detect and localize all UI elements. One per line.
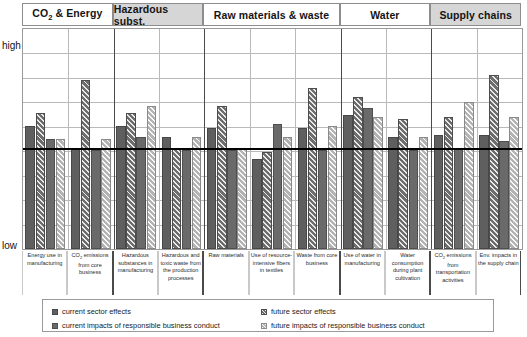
bar <box>318 150 327 249</box>
x-axis-tick-label: Water consumption during plant cultivati… <box>385 251 430 295</box>
x-axis-tick-label-text: Waste from core business <box>296 252 337 267</box>
bar <box>479 135 488 249</box>
category-group-header: Water <box>340 3 431 26</box>
bar <box>444 117 453 249</box>
legend-item[interactable]: future sector effects <box>261 307 336 316</box>
bar <box>328 126 337 249</box>
bar <box>172 148 181 249</box>
threshold-line <box>23 148 522 150</box>
y-axis-label-low: low <box>2 240 17 251</box>
x-axis-tick-label-text: Water consumption during plant cultivati… <box>387 252 428 282</box>
legend-swatch-icon <box>261 323 267 329</box>
legend-item-label: current sector effects <box>62 307 131 316</box>
bar <box>192 137 201 249</box>
category-group-header: Supply chains <box>430 3 521 26</box>
group-separator <box>204 29 205 249</box>
legend-item[interactable]: current sector effects <box>52 307 131 316</box>
bar <box>182 150 191 249</box>
x-axis-tick-label-text: CO2 emissions from transportation activi… <box>432 252 473 284</box>
x-axis-tick-label-text: Hazardous and toxic waste from the produ… <box>160 252 201 282</box>
bar <box>147 106 156 249</box>
bar <box>36 113 45 249</box>
vertical-gridline <box>159 29 160 249</box>
x-axis-tick-label-text: CO2 emissions from core business <box>69 252 110 277</box>
bar <box>71 148 80 249</box>
bar <box>252 159 261 249</box>
vertical-gridline <box>295 29 296 249</box>
bar <box>499 141 508 249</box>
y-axis-label-high: high <box>2 40 21 51</box>
horizontal-gridline <box>23 78 522 79</box>
bar <box>91 150 100 249</box>
legend-item[interactable]: current impacts of responsible business … <box>52 321 220 330</box>
vertical-gridline <box>386 29 387 249</box>
bar <box>227 150 236 249</box>
bar <box>101 139 110 249</box>
x-axis-tick-label-text: Raw materials <box>208 252 243 260</box>
bar <box>373 117 382 249</box>
x-axis-label-band: Energy use in manufacturingCO2 emissions… <box>22 251 523 295</box>
category-header-band: CO2 & EnergyHazardous subst.Raw material… <box>22 3 523 26</box>
x-axis-tick-label-text: Hazardous substances in manufacturing <box>115 252 156 275</box>
bar <box>489 75 498 249</box>
x-axis-tick-label: Hazardous substances in manufacturing <box>113 251 158 295</box>
bar <box>308 88 317 249</box>
legend-item-label: future impacts of responsible business c… <box>271 321 425 330</box>
bar <box>162 137 171 249</box>
x-axis-tick-label: Use of water in manufacturing <box>340 251 385 295</box>
x-axis-tick-label: Energy use in manufacturing <box>22 251 67 295</box>
group-separator <box>341 29 342 249</box>
bar <box>46 139 55 249</box>
horizontal-gridline <box>23 102 522 103</box>
bar <box>419 137 428 249</box>
bar <box>409 150 418 249</box>
x-axis-tick-label: Hazardous and toxic waste from the produ… <box>158 251 203 295</box>
bar <box>353 97 362 249</box>
x-axis-tick-label-text: Env. impacts in the supply chain <box>478 252 519 267</box>
category-group-label: Water <box>370 9 399 21</box>
bar <box>343 115 352 249</box>
bar <box>434 135 443 249</box>
bar <box>273 124 282 249</box>
chart-root: CO2 & EnergyHazardous subst.Raw material… <box>0 0 527 337</box>
chart-legend: current sector effectsfuture sector effe… <box>42 299 494 332</box>
legend-swatch-icon <box>261 309 267 315</box>
bar <box>81 80 90 249</box>
legend-item-label: future sector effects <box>271 307 336 316</box>
x-axis-tick-label: Waste from core business <box>294 251 339 295</box>
bar <box>126 113 135 249</box>
bar <box>283 137 292 249</box>
legend-item-label: current impacts of responsible business … <box>62 321 220 330</box>
group-separator <box>431 29 432 249</box>
bar <box>509 117 518 249</box>
bar <box>454 148 463 249</box>
group-separator <box>114 29 115 249</box>
bar <box>464 102 473 249</box>
category-group-header: CO2 & Energy <box>22 3 113 26</box>
vertical-gridline <box>68 29 69 249</box>
bar <box>217 106 226 249</box>
category-group-label: CO2 & Energy <box>32 7 102 22</box>
bar <box>207 128 216 249</box>
x-axis-tick-label-text: Use of resource-intensive fibers in text… <box>251 252 292 275</box>
category-group-header: Raw materials & waste <box>203 3 339 26</box>
x-axis-tick-label-text: Energy use in manufacturing <box>24 252 65 267</box>
x-axis-tick-label-text: Use of water in manufacturing <box>342 252 383 267</box>
category-group-label: Supply chains <box>439 9 511 21</box>
bar <box>116 126 125 249</box>
bar <box>298 128 307 249</box>
bar <box>398 119 407 249</box>
x-axis-tick-label: CO2 emissions from core business <box>67 251 112 295</box>
plot-area <box>22 28 523 250</box>
bar <box>136 137 145 249</box>
horizontal-gridline <box>23 53 522 54</box>
x-axis-tick-label: Use of resource-intensive fibers in text… <box>249 251 294 295</box>
bar <box>237 148 246 249</box>
bar <box>25 126 34 249</box>
bar <box>56 139 65 249</box>
legend-item[interactable]: future impacts of responsible business c… <box>261 321 425 330</box>
legend-swatch-icon <box>52 309 58 315</box>
x-axis-tick-label: Raw materials <box>203 251 248 295</box>
category-group-header: Hazardous subst. <box>113 3 204 26</box>
bar <box>363 108 372 249</box>
